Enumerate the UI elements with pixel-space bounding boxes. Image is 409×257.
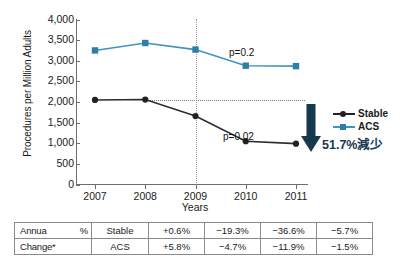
- table-row-label-annual: Annua: [20, 223, 46, 238]
- table-cell: −5.7%: [317, 223, 373, 239]
- table-row: Annua % Stable +0.6% −19.3% −36.6% −5.7%: [15, 223, 373, 239]
- x-tick-mark: [145, 185, 146, 189]
- data-point: [92, 47, 98, 53]
- table-cell: −4.7%: [205, 239, 261, 255]
- x-tick-label: 2011: [266, 190, 326, 202]
- table-row-label-line2: Change*: [15, 239, 92, 255]
- legend-label-stable: Stable: [355, 108, 388, 119]
- x-tick-mark: [196, 185, 197, 189]
- chart-figure: Procedures per Million Adults 05001,0001…: [0, 0, 409, 257]
- annual-change-table: Annua % Stable +0.6% −19.3% −36.6% −5.7%…: [14, 222, 373, 255]
- data-point: [142, 40, 148, 46]
- x-tick-mark: [95, 185, 96, 189]
- data-point: [243, 63, 249, 69]
- series-paths: [0, 0, 409, 212]
- line-chart: Procedures per Million Adults 05001,0001…: [0, 0, 409, 212]
- table-series-acs: ACS: [92, 239, 149, 255]
- table-series-stable: Stable: [92, 223, 149, 239]
- data-point: [293, 63, 299, 69]
- table-row-label-percent: %: [80, 223, 88, 238]
- table-cell: −19.3%: [205, 223, 261, 239]
- table-cell: −1.5%: [317, 239, 373, 255]
- data-point: [92, 97, 98, 103]
- y-tick-mark: [76, 61, 80, 62]
- table-cell: −11.9%: [261, 239, 317, 255]
- table-cell: +5.8%: [149, 239, 205, 255]
- table-cell: −36.6%: [261, 223, 317, 239]
- annotation-p-stable: p=0.02: [223, 131, 254, 142]
- plot-area: [0, 0, 409, 212]
- down-arrow-icon: [300, 104, 322, 158]
- data-point: [192, 113, 198, 119]
- legend-label-acs: ACS: [355, 121, 379, 132]
- data-point: [192, 46, 198, 52]
- y-tick-mark: [76, 102, 80, 103]
- decline-callout-text: 51.7%減少: [322, 134, 383, 153]
- y-tick-mark: [76, 20, 80, 21]
- table-row: Change* ACS +5.8% −4.7% −11.9% −1.5%: [15, 239, 373, 255]
- legend: Stable ACS: [333, 107, 409, 133]
- x-tick-mark: [246, 185, 247, 189]
- table-row-label-line1: Annua %: [15, 223, 92, 239]
- y-tick-mark: [76, 164, 80, 165]
- y-tick-mark: [76, 40, 80, 41]
- table-cell: +0.6%: [149, 223, 205, 239]
- legend-symbol-stable: [333, 109, 355, 119]
- y-tick-mark: [76, 185, 80, 186]
- y-tick-mark: [76, 81, 80, 82]
- legend-item-acs[interactable]: ACS: [333, 120, 409, 133]
- x-tick-mark: [296, 185, 297, 189]
- data-point: [293, 141, 299, 147]
- legend-symbol-acs: [333, 122, 355, 132]
- legend-item-stable[interactable]: Stable: [333, 107, 409, 120]
- series-line-stable: [95, 100, 296, 144]
- y-tick-mark: [76, 143, 80, 144]
- data-point: [142, 96, 148, 102]
- annotation-p-acs: p=0.2: [229, 47, 254, 58]
- y-tick-mark: [76, 123, 80, 124]
